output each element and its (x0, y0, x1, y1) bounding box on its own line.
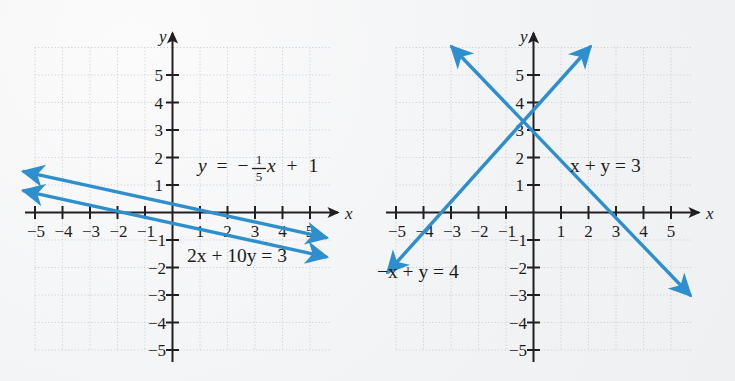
eq1-lhs: y (196, 155, 207, 176)
svg-text:y = −: y = − (196, 155, 248, 176)
left-y-axis-label: y (157, 27, 167, 46)
tick-label: 2 (584, 222, 593, 241)
tick-label: 3 (612, 222, 621, 241)
eq1-sign: − (237, 155, 248, 176)
right-grid (396, 48, 691, 351)
right-graph: −5 −4 −3 −2 −1 1 2 3 4 5 5 4 3 2 1 −1 −2… (377, 27, 714, 362)
tick-label: 2 (223, 222, 232, 241)
tick-label: −5 (388, 222, 406, 241)
eq1-variable: x (266, 155, 276, 176)
tick-label: 2 (155, 149, 164, 168)
tick-label: −3 (509, 286, 527, 305)
left-grid (35, 48, 330, 351)
tick-label: −1 (148, 231, 166, 250)
tick-label: −5 (509, 341, 527, 360)
tick-label: 4 (516, 94, 525, 113)
tick-label: 1 (557, 222, 566, 241)
tick-label: 5 (667, 222, 676, 241)
tick-label: −2 (109, 222, 127, 241)
tick-label: 3 (155, 121, 164, 140)
tick-label: 4 (155, 94, 164, 113)
eq1-denominator: 5 (256, 169, 263, 184)
tick-label: −3 (82, 222, 100, 241)
left-x-axis-label: x (344, 204, 353, 223)
tick-label: 5 (155, 66, 164, 85)
tick-label: 4 (278, 222, 287, 241)
left-equation-2: 2x + 10y = 3 (187, 245, 287, 266)
tick-label: −1 (509, 231, 527, 250)
tick-label: −2 (470, 222, 488, 241)
eq1-relation: = (217, 155, 228, 176)
tick-label: 1 (516, 176, 525, 195)
tick-label: 4 (639, 222, 648, 241)
tick-label: −3 (443, 222, 461, 241)
tick-label: 2 (516, 149, 525, 168)
right-equation-2: −x + y = 4 (377, 261, 459, 282)
tick-label: −4 (148, 314, 167, 333)
tick-label: −2 (148, 259, 166, 278)
tick-label: 5 (306, 222, 315, 241)
eq1-constant: 1 (308, 155, 318, 176)
tick-label: 5 (516, 66, 525, 85)
eq1-plus: + (287, 155, 298, 176)
tick-label: −5 (27, 222, 45, 241)
right-x-axis-label: x (705, 204, 714, 223)
svg-text:x + 1: x + 1 (266, 155, 318, 176)
left-equation-1: y = − 1 5 x + 1 (196, 152, 318, 184)
left-graph: −5 −4 −3 −2 −1 1 2 3 4 5 5 4 3 2 1 −1 −2… (24, 27, 353, 362)
figure-two-line-graphs: −5 −4 −3 −2 −1 1 2 3 4 5 5 4 3 2 1 −1 −2… (0, 0, 735, 381)
tick-label: 1 (155, 176, 164, 195)
tick-label: −5 (148, 341, 166, 360)
tick-label: −4 (509, 314, 528, 333)
right-equation-1: x + y = 3 (570, 155, 641, 176)
tick-label: −4 (54, 222, 73, 241)
tick-label: 3 (251, 222, 260, 241)
graphs-svg: −5 −4 −3 −2 −1 1 2 3 4 5 5 4 3 2 1 −1 −2… (0, 0, 735, 381)
right-y-axis-label: y (518, 27, 528, 46)
tick-label: −3 (148, 286, 166, 305)
eq1-numerator: 1 (256, 152, 263, 167)
tick-label: −2 (509, 259, 527, 278)
